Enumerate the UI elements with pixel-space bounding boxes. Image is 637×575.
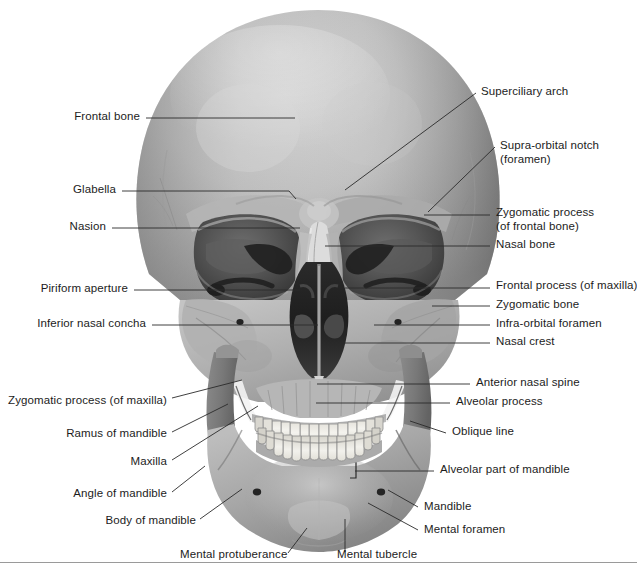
skull-diagram-figure: Frontal boneGlabellaNasionPiriform apert…	[0, 0, 637, 575]
label-anterior-nasal-spine: Anterior nasal spine	[476, 376, 580, 390]
label-frontal-process-maxilla: Frontal process (of maxilla)	[496, 279, 637, 293]
label-piriform-aperture: Piriform aperture	[0, 282, 128, 296]
label-zygomatic-process-maxilla: Zygomatic process (of maxilla)	[0, 394, 167, 408]
bottom-divider-rule	[0, 562, 637, 563]
right-orbit	[337, 214, 444, 305]
label-glabella: Glabella	[0, 183, 116, 197]
label-infra-orbital-foramen: Infra-orbital foramen	[496, 317, 602, 331]
label-ramus-of-mandible: Ramus of mandible	[0, 427, 167, 441]
label-zygomatic-process-frontal: Zygomatic process (of frontal bone)	[496, 206, 594, 233]
leader-line-angle-of-mandible	[172, 466, 205, 492]
label-frontal-bone: Frontal bone	[0, 110, 140, 124]
mental-foramen-left-dot	[253, 489, 261, 496]
label-nasion: Nasion	[0, 220, 106, 234]
label-body-of-mandible: Body of mandible	[0, 514, 196, 528]
label-alveolar-part-of-mandible: Alveolar part of mandible	[440, 463, 570, 477]
label-superciliary-arch: Superciliary arch	[481, 85, 568, 99]
label-angle-of-mandible: Angle of mandible	[0, 487, 167, 501]
label-zygomatic-bone: Zygomatic bone	[496, 298, 579, 312]
label-mental-tubercle: Mental tubercle	[337, 548, 417, 562]
label-supra-orbital-notch: Supra-orbital notch (foramen)	[500, 139, 599, 166]
label-nasal-bone: Nasal bone	[496, 238, 555, 252]
label-nasal-crest: Nasal crest	[496, 335, 555, 349]
mental-foramen-right-dot	[377, 489, 385, 496]
infra-orbital-foramen-right-dot	[394, 319, 401, 325]
label-mental-protuberance: Mental protuberance	[180, 548, 287, 562]
label-inferior-nasal-concha: Inferior nasal concha	[0, 317, 146, 331]
label-mental-foramen: Mental foramen	[424, 523, 505, 537]
infra-orbital-foramen-left-dot	[236, 319, 243, 325]
label-maxilla: Maxilla	[0, 455, 167, 469]
label-alveolar-process: Alveolar process	[456, 395, 543, 409]
label-mandible: Mandible	[424, 500, 471, 514]
label-oblique-line: Oblique line	[452, 425, 514, 439]
